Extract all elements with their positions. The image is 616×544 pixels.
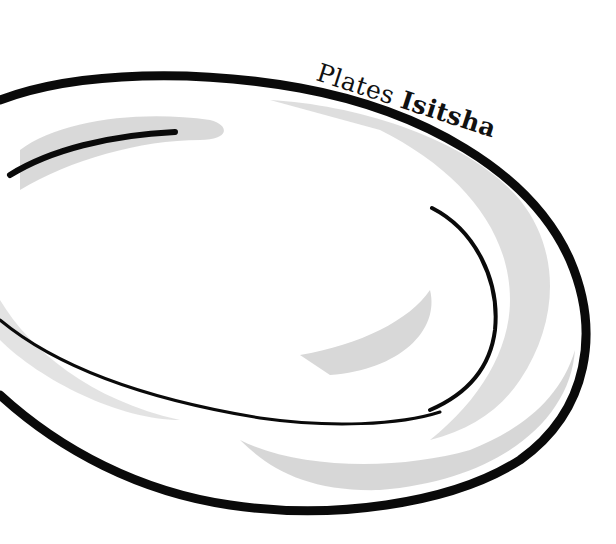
- plate-drawing-icon: [0, 0, 616, 544]
- plate-illustration: Plates Isitsha: [0, 0, 616, 544]
